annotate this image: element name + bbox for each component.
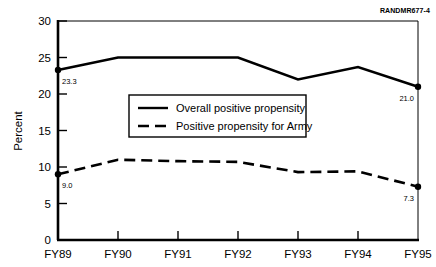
x-tick-label-FY90: FY90 bbox=[104, 248, 132, 260]
x-tick-label-FY89: FY89 bbox=[44, 248, 72, 260]
y-tick-label-25: 25 bbox=[38, 52, 51, 64]
y-tick-label-20: 20 bbox=[38, 88, 51, 100]
line-chart-svg: RANDMR677-4 051015202530 FY89FY90FY91FY9… bbox=[0, 0, 436, 267]
figure-identifier-number: MR677-4 bbox=[401, 7, 431, 14]
y-tick-label-5: 5 bbox=[45, 198, 51, 210]
x-tick-label-FY94: FY94 bbox=[344, 248, 372, 260]
endpoint-marker-0-first bbox=[55, 67, 61, 73]
legend-item-label-overall: Overall positive propensity bbox=[176, 102, 306, 114]
endpoint-marker-0-last bbox=[415, 84, 421, 90]
figure-identifier: RANDMR677-4 bbox=[380, 7, 430, 14]
endpoint-marker-1-last bbox=[415, 184, 421, 190]
point-label-0-last: 21.0 bbox=[399, 94, 414, 103]
chart-legend: Overall positive propensity Positive pro… bbox=[129, 95, 313, 137]
figure-identifier-brand: RAND bbox=[380, 7, 401, 14]
y-tick-label-15: 15 bbox=[38, 125, 51, 137]
y-axis-title: Percent bbox=[12, 110, 24, 150]
x-tick-label-FY95: FY95 bbox=[404, 248, 432, 260]
chart-figure: RANDMR677-4 051015202530 FY89FY90FY91FY9… bbox=[0, 0, 436, 267]
y-tick-label-0: 0 bbox=[45, 234, 51, 246]
endpoint-marker-1-first bbox=[55, 171, 61, 177]
x-tick-label-FY92: FY92 bbox=[224, 248, 252, 260]
y-tick-label-30: 30 bbox=[38, 15, 51, 27]
point-label-1-last: 7.3 bbox=[404, 194, 414, 203]
y-tick-label-10: 10 bbox=[38, 161, 51, 173]
point-label-1-first: 9.0 bbox=[62, 181, 72, 190]
legend-item-label-army: Positive propensity for Army bbox=[176, 120, 313, 132]
x-tick-label-FY93: FY93 bbox=[284, 248, 312, 260]
x-tick-label-FY91: FY91 bbox=[164, 248, 192, 260]
point-label-0-first: 23.3 bbox=[62, 77, 77, 86]
